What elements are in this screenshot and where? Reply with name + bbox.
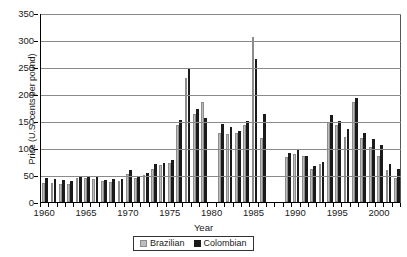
y-axis-tick-mark xyxy=(34,203,38,204)
bar-colombian-1977 xyxy=(188,69,191,202)
gridline xyxy=(41,14,401,15)
bar-colombian-1984 xyxy=(246,121,249,202)
bar-colombian-1968 xyxy=(112,179,115,202)
gridline xyxy=(41,122,401,123)
legend-item-brazilian: Brazilian xyxy=(140,239,185,248)
y-axis-tick-mark xyxy=(34,14,38,15)
bar-colombian-2000 xyxy=(380,145,383,202)
bar-colombian-1972 xyxy=(146,173,149,202)
bar-colombian-1961 xyxy=(54,179,57,202)
y-axis-tick-mark xyxy=(34,68,38,69)
x-axis-tick-mark xyxy=(65,203,66,207)
plot-area xyxy=(40,14,400,203)
x-axis-tick-mark xyxy=(115,203,116,207)
bar-colombian-2001 xyxy=(389,164,392,202)
gridline xyxy=(41,41,401,42)
x-axis-tick-labels: 196019651970197519801985199019952000 xyxy=(0,208,407,222)
bar-colombian-1986 xyxy=(263,114,266,202)
x-axis-tick-mark xyxy=(191,203,192,207)
x-axis-tick-mark xyxy=(57,203,58,207)
y-axis-tick-label: 200 xyxy=(8,90,34,100)
x-axis-tick-label: 1995 xyxy=(327,208,348,218)
bar-colombian-1974 xyxy=(163,163,166,202)
bar-colombian-1994 xyxy=(330,115,333,202)
x-axis-tick-mark xyxy=(182,203,183,207)
bar-colombian-1985 xyxy=(255,59,258,202)
gridline xyxy=(41,149,401,150)
bar-colombian-1964 xyxy=(79,177,82,202)
x-axis-tick-mark xyxy=(316,203,317,207)
y-axis-tick-mark xyxy=(34,122,38,123)
x-axis-tick-mark xyxy=(224,203,225,207)
x-axis-tick-mark xyxy=(358,203,359,207)
x-axis-tick-mark xyxy=(274,203,275,207)
y-axis-tick-label: 150 xyxy=(8,117,34,127)
bar-colombian-1983 xyxy=(238,131,241,202)
gridline xyxy=(41,68,401,69)
x-axis-tick-label: 1965 xyxy=(75,208,96,218)
y-axis-tick-label: 350 xyxy=(8,9,34,19)
y-axis-tick-label: 0 xyxy=(8,198,34,208)
y-axis-tick-mark xyxy=(34,176,38,177)
legend-swatch-colombian-icon xyxy=(194,240,201,247)
bar-colombian-1960 xyxy=(45,178,48,202)
x-axis-tick-mark xyxy=(99,203,100,207)
x-axis-tick-label: 2000 xyxy=(368,208,389,218)
x-axis-tick-label: 1970 xyxy=(117,208,138,218)
legend-label-brazilian: Brazilian xyxy=(150,239,185,248)
x-axis-tick-mark xyxy=(308,203,309,207)
x-axis-title: Year xyxy=(0,222,407,233)
bar-colombian-2002 xyxy=(397,169,400,202)
y-axis-tick-label: 50 xyxy=(8,171,34,181)
bar-chart: Price (U.S. cents per pound) 35030025020… xyxy=(0,0,407,257)
bar-colombian-1970 xyxy=(129,170,132,202)
bar-colombian-1973 xyxy=(154,164,157,202)
x-axis-tick-label: 1985 xyxy=(243,208,264,218)
x-axis-tick-mark xyxy=(199,203,200,207)
gridline xyxy=(41,176,401,177)
bar-colombian-1976 xyxy=(179,120,182,202)
x-axis-tick-mark xyxy=(233,203,234,207)
bar-colombian-1996 xyxy=(347,129,350,202)
y-axis-tick-mark xyxy=(34,149,38,150)
gridline xyxy=(41,95,401,96)
x-axis-tick-mark xyxy=(266,203,267,207)
x-axis-tick-label: 1980 xyxy=(201,208,222,218)
bar-colombian-1989 xyxy=(288,153,291,202)
bar-colombian-1979 xyxy=(204,118,207,202)
bar-colombian-1975 xyxy=(171,160,174,202)
x-axis-tick-mark xyxy=(400,203,401,207)
bar-colombian-1981 xyxy=(221,124,224,202)
x-axis-tick-mark xyxy=(350,203,351,207)
x-axis-tick-label: 1975 xyxy=(159,208,180,218)
bar-colombian-1962 xyxy=(62,180,65,202)
x-axis-tick-mark xyxy=(73,203,74,207)
legend-item-colombian: Colombian xyxy=(194,239,247,248)
bar-colombian-1991 xyxy=(305,156,308,202)
x-axis-tick-mark xyxy=(241,203,242,207)
x-axis-tick-mark xyxy=(392,203,393,207)
y-axis-tick-label: 300 xyxy=(8,36,34,46)
y-axis-tick-mark xyxy=(34,41,38,42)
chart-legend: Brazilian Colombian xyxy=(133,236,254,251)
bar-colombian-1971 xyxy=(137,176,140,202)
x-axis-tick-mark xyxy=(157,203,158,207)
bar-colombian-1978 xyxy=(196,109,199,202)
bar-colombian-1963 xyxy=(70,181,73,202)
bar-colombian-1997 xyxy=(355,98,358,202)
y-axis-tick-label: 100 xyxy=(8,144,34,154)
bar-colombian-1967 xyxy=(104,180,107,202)
x-axis-tick-mark xyxy=(107,203,108,207)
bar-colombian-1995 xyxy=(338,121,341,202)
bar-colombian-1969 xyxy=(121,179,124,202)
x-axis-tick-label: 1960 xyxy=(34,208,55,218)
bar-colombian-1992 xyxy=(313,166,316,202)
bar-colombian-1966 xyxy=(96,177,99,202)
x-axis-tick-mark xyxy=(149,203,150,207)
bar-colombian-1998 xyxy=(363,133,366,202)
y-axis-tick-mark xyxy=(34,95,38,96)
bar-colombian-1993 xyxy=(322,162,325,202)
legend-label-colombian: Colombian xyxy=(204,239,247,248)
x-axis-tick-label: 1990 xyxy=(285,208,306,218)
legend-swatch-brazilian-icon xyxy=(140,240,147,247)
